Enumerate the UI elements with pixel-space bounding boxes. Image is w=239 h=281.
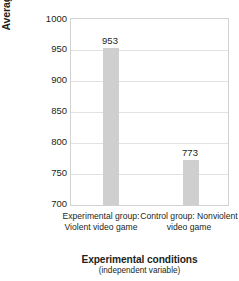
gridline-850 [71, 112, 228, 113]
gridline-900 [71, 81, 228, 82]
y-tick-label-950: 950 [31, 44, 67, 54]
x-category-label-control: Control group: Nonviolent video game [140, 211, 238, 233]
y-tick-label-800: 800 [31, 137, 67, 147]
y-tick-label-750: 750 [31, 168, 67, 178]
y-axis-title-line1: Average noise blast duration [1, 0, 13, 30]
x-axis-title-main: Experimental conditions [40, 254, 239, 266]
gridline-800 [71, 143, 228, 144]
bar-experimental-group [103, 48, 119, 205]
y-tick-label-700: 700 [31, 199, 67, 209]
y-tick-label-850: 850 [31, 106, 67, 116]
x-axis-title: Experimental conditions (independent var… [40, 254, 239, 275]
bar-chart-figure: Average noise blast duration in millisec… [0, 0, 239, 281]
bar-control-group [183, 160, 199, 205]
x-axis-title-subtext: (independent variable) [40, 266, 239, 275]
y-tick-label-1000: 1000 [31, 14, 67, 24]
gridline-950 [71, 50, 228, 51]
bar-value-label-0: 953 [90, 36, 130, 46]
bar-value-label-1: 773 [170, 148, 210, 158]
y-tick-label-900: 900 [31, 75, 67, 85]
gridline-750 [71, 174, 228, 175]
x-category-label-experimental: Experimental group: Violent video game [54, 211, 148, 233]
plot-area [70, 18, 229, 206]
